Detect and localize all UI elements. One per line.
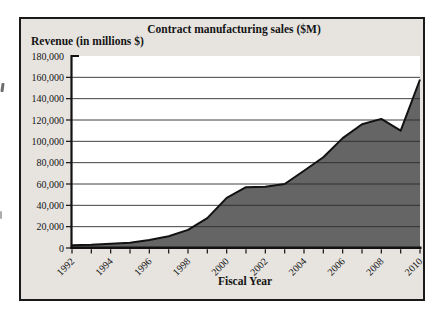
svg-text:80,000: 80,000 [37,157,65,168]
svg-text:140,000: 140,000 [32,93,65,104]
svg-text:40,000: 40,000 [37,200,65,211]
scan-artifact [0,211,2,219]
svg-text:120,000: 120,000 [32,115,65,126]
x-axis-title: Fiscal Year [67,275,423,287]
y-tick-labels: 020,00040,00060,00080,000100,000120,0001… [32,51,72,254]
page: { "frame": { "page_background": "#ffffff… [0,0,439,315]
chart-frame: Contract manufacturing sales ($M) Revenu… [19,17,425,301]
svg-text:160,000: 160,000 [32,72,65,83]
scan-artifact [0,83,4,92]
area-chart-svg: 020,00040,00060,00080,000100,000120,0001… [21,19,423,299]
x-ticks [72,249,420,253]
svg-text:60,000: 60,000 [37,179,65,190]
svg-text:0: 0 [59,243,64,254]
svg-text:100,000: 100,000 [32,136,65,147]
svg-text:20,000: 20,000 [37,221,65,232]
svg-text:180,000: 180,000 [32,51,65,62]
